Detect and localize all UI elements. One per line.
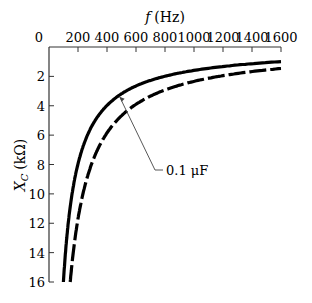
x-axis-title: f(Hz) — [144, 9, 185, 25]
y-tick-label: 8 — [37, 158, 45, 173]
y-tick-label: 10 — [28, 187, 45, 202]
annotation: 0.1 μF — [120, 97, 209, 178]
x-tick-label: 800 — [153, 30, 178, 45]
y-tick-label: 16 — [28, 275, 45, 290]
x-tick-label: 600 — [124, 30, 149, 45]
y-axis-title: XC(kΩ) — [12, 139, 30, 193]
annotation-label: 0.1 μF — [166, 163, 208, 178]
x-tick-label: 1600 — [264, 30, 297, 45]
x-tick-label: 400 — [95, 30, 120, 45]
y-tick-label: 14 — [28, 246, 45, 261]
chart: 0200400600800100012001400160024681012141… — [0, 0, 312, 303]
x-tick-label: 0 — [35, 30, 43, 45]
x-tick-label: 200 — [66, 30, 91, 45]
y-tick-label: 2 — [37, 69, 45, 84]
annotation-leader — [120, 97, 163, 170]
y-tick-label: 12 — [28, 216, 45, 231]
y-tick-label: 6 — [37, 128, 45, 143]
y-tick-label: 4 — [37, 99, 45, 114]
axes: 0200400600800100012001400160024681012141… — [28, 30, 297, 290]
